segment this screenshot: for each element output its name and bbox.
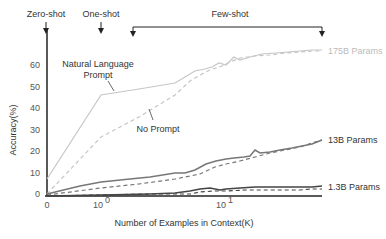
region-markers: Zero-shot One-shot Few-shot bbox=[27, 9, 325, 37]
svg-text:10: 10 bbox=[216, 200, 226, 210]
svg-text:1: 1 bbox=[228, 195, 233, 205]
series-13b-nl bbox=[47, 140, 322, 194]
y-axis-label: Accuracy(%) bbox=[8, 104, 18, 155]
arrow-down-icon bbox=[43, 28, 49, 34]
svg-text:Few-shot: Few-shot bbox=[211, 9, 249, 19]
svg-text:40: 40 bbox=[30, 103, 40, 113]
svg-text:No Prompt: No Prompt bbox=[136, 124, 180, 134]
svg-text:One-shot: One-shot bbox=[82, 9, 120, 19]
arrow-down-icon bbox=[130, 31, 136, 37]
annotation-no-prompt: No Prompt bbox=[136, 109, 180, 134]
arrow-down-icon bbox=[98, 28, 104, 34]
accuracy-chart: 0 10 20 30 40 50 60 0 10 0 10 1 Number o… bbox=[0, 0, 386, 239]
svg-text:0: 0 bbox=[105, 195, 110, 205]
svg-text:Prompt: Prompt bbox=[83, 70, 113, 80]
svg-text:Natural Language: Natural Language bbox=[62, 59, 134, 69]
x-axis-label: Number of Examples in Context(K) bbox=[114, 218, 253, 228]
annotation-natural-language-prompt: Natural Language Prompt bbox=[62, 59, 134, 91]
arrow-down-icon bbox=[319, 31, 325, 37]
svg-text:60: 60 bbox=[30, 60, 40, 70]
svg-text:30: 30 bbox=[30, 125, 40, 135]
series-1_3b-nl bbox=[47, 186, 322, 196]
y-ticks: 0 10 20 30 40 50 60 bbox=[30, 60, 40, 199]
label-13b: 13B Params bbox=[328, 135, 378, 145]
svg-text:50: 50 bbox=[30, 82, 40, 92]
label-175b: 175B Params bbox=[328, 46, 383, 56]
x-ticks: 0 10 0 10 1 bbox=[44, 195, 233, 210]
svg-text:10: 10 bbox=[93, 200, 103, 210]
svg-text:Zero-shot: Zero-shot bbox=[27, 9, 66, 19]
svg-text:0: 0 bbox=[44, 200, 49, 210]
label-1_3b: 1.3B Params bbox=[328, 182, 381, 192]
svg-text:20: 20 bbox=[30, 146, 40, 156]
svg-text:10: 10 bbox=[30, 168, 40, 178]
svg-text:0: 0 bbox=[35, 189, 40, 199]
